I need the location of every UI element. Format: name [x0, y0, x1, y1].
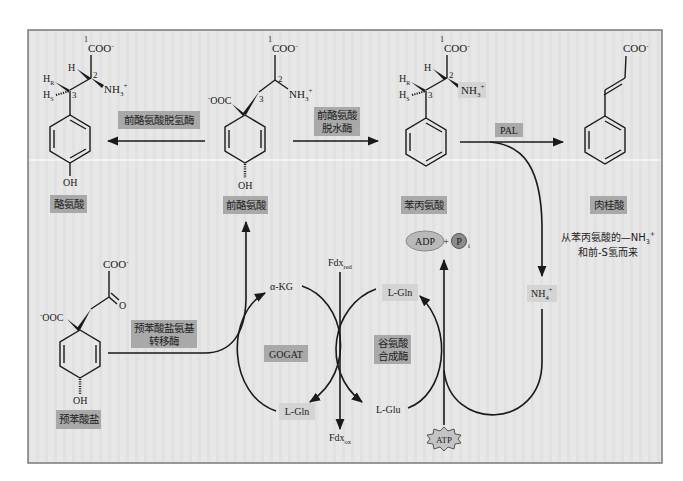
enzyme-gogat: GOGAT: [269, 349, 303, 360]
adp-label: ADP: [415, 236, 435, 247]
phosphate-subscript: i: [468, 242, 470, 250]
prephenate-label: 预苯酸盐: [59, 413, 99, 425]
phenylalanine-c2-label: 2: [449, 70, 454, 80]
prephenate-ring-carboxyl: -OOC: [40, 311, 64, 323]
prephenate-ketone-oxygen: O: [119, 300, 126, 311]
pathway-diagram: 1 COO- H 2 NH3+ 3 HR HS OH 酪氨酸 前酪氨酸脱氢酶 1…: [0, 0, 683, 481]
l-glutamate: L-Glu: [376, 404, 400, 415]
phenylalanine-c3-label: 3: [428, 90, 433, 100]
enzyme-glutamine-synthetase-line1: 谷氨酸: [378, 337, 409, 349]
arogenate-hydroxyl: OH: [238, 180, 252, 191]
alpha-ketoglutarate: α-KG: [270, 281, 293, 292]
arogenate-label: 前酪氨酸: [226, 199, 267, 211]
enzyme-pal: PAL: [500, 125, 518, 136]
l-glutamine-left: L-Gln: [285, 406, 309, 417]
phenylalanine-h2: H: [424, 62, 431, 73]
cinnamate-carboxyl: COO-: [623, 42, 649, 54]
enzyme-prephenate-aminotransferase-line1: 预苯酸盐氨基: [134, 322, 195, 334]
phosphate-label: P: [456, 236, 462, 247]
cinnamate-note-line2: 和前-S氢而来: [578, 246, 638, 258]
enzyme-arogenate-dehydratase-line2: 脱水酶: [322, 122, 353, 134]
cinnamate-label: 肉桂酸: [594, 199, 625, 211]
l-glutamine-right: L-Gln: [388, 287, 412, 298]
arogenate-carboxyl: COO-: [272, 42, 298, 54]
enzyme-prephenate-aminotransferase-line2: 转移酶: [149, 335, 180, 347]
atp-label: ATP: [436, 435, 452, 445]
arogenate-ring-carboxyl: -OOC: [208, 94, 232, 106]
phenylalanine-label: 苯丙氨酸: [404, 199, 445, 211]
tyrosine-h2: H: [68, 62, 75, 73]
enzyme-arogenate-dehydrogenase: 前酪氨酸脱氢酶: [124, 114, 195, 126]
phenylalanine-carboxyl: COO-: [444, 42, 470, 54]
tyrosine-c3-label: 3: [72, 90, 77, 100]
plus-sign: +: [443, 236, 449, 247]
arogenate-c3-label: 3: [259, 94, 264, 104]
tyrosine-c2-label: 2: [93, 70, 98, 80]
enzyme-arogenate-dehydratase-line1: 前酪氨酸: [317, 109, 358, 121]
tyrosine-hydroxyl: OH: [63, 177, 77, 188]
tyrosine-label: 酪氨酸: [54, 198, 85, 210]
enzyme-glutamine-synthetase-line2: 合成酶: [378, 350, 409, 362]
tyrosine-carboxyl: COO-: [88, 42, 114, 54]
prephenate-hydroxyl: OH: [73, 395, 87, 406]
prephenate-carboxyl: COO-: [103, 258, 129, 270]
